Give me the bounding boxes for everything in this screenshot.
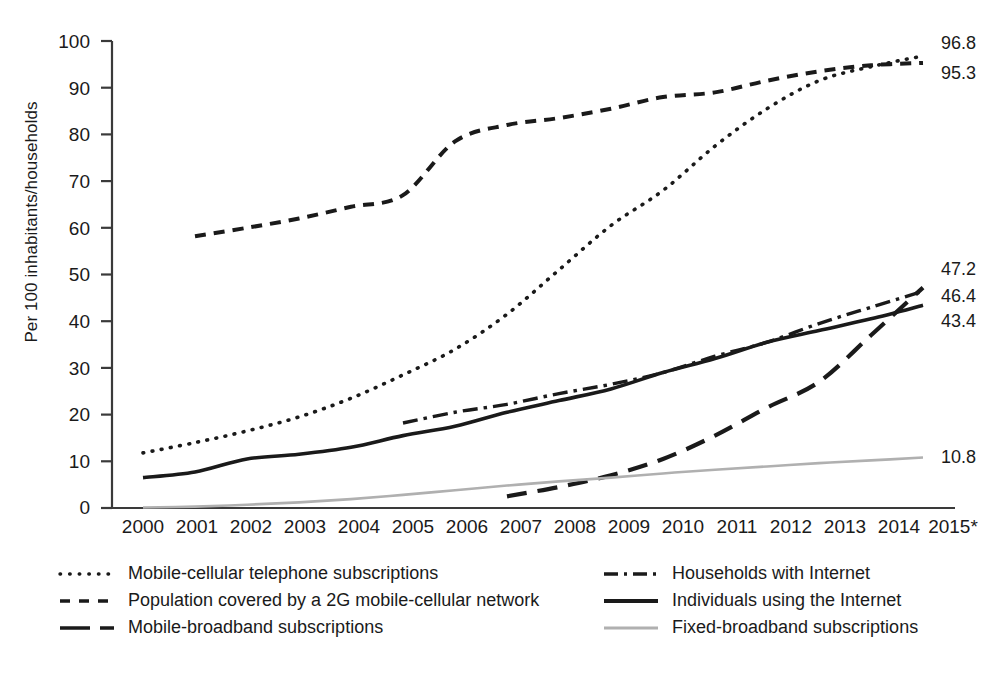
legend-item-fixed-broadband[interactable]: Fixed-broadband subscriptions [600, 614, 1000, 641]
legend-label: Households with Internet [672, 563, 870, 584]
dashed-line-icon [56, 594, 118, 608]
series-line [143, 458, 923, 508]
series-line [143, 56, 923, 453]
legend-item-mobile-cellular[interactable]: Mobile-cellular telephone subscriptions [56, 560, 576, 587]
legend-label: Mobile-broadband subscriptions [128, 617, 383, 638]
legend-item-households[interactable]: Households with Internet [600, 560, 1000, 587]
figure-caption-fragment [18, 664, 278, 673]
series-line [195, 63, 923, 236]
y-axis-ticks [101, 41, 112, 508]
legend-label: Fixed-broadband subscriptions [672, 617, 918, 638]
legend-item-individuals[interactable]: Individuals using the Internet [600, 587, 1000, 614]
series-line [507, 288, 923, 497]
dash-dot-line-icon [600, 567, 662, 581]
series-lines [143, 56, 923, 508]
series-line [403, 291, 923, 423]
chart-figure: Per 100 inhabitants/households 100 90 80… [0, 0, 1006, 673]
chart-legend: Mobile-cellular telephone subscriptions … [0, 560, 1006, 660]
long-dashed-line-icon [56, 621, 118, 635]
legend-label: Mobile-cellular telephone subscriptions [128, 563, 438, 584]
light-solid-line-icon [600, 621, 662, 635]
legend-label: Individuals using the Internet [672, 590, 901, 611]
legend-item-2g-coverage[interactable]: Population covered by a 2G mobile-cellul… [56, 587, 576, 614]
legend-item-mobile-broadband[interactable]: Mobile-broadband subscriptions [56, 614, 576, 641]
dotted-line-icon [56, 567, 118, 581]
legend-column-left: Mobile-cellular telephone subscriptions … [56, 560, 576, 641]
plot-area [0, 0, 1006, 560]
solid-line-icon [600, 594, 662, 608]
legend-column-right: Households with Internet Individuals usi… [600, 560, 1000, 641]
legend-label: Population covered by a 2G mobile-cellul… [128, 590, 539, 611]
